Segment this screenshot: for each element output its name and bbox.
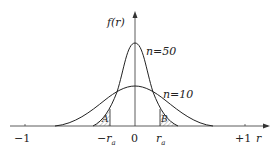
- tick-label-minus-1: −1: [14, 133, 30, 144]
- y-axis-label: f(r): [107, 17, 125, 28]
- tick-label-zero: 0: [131, 133, 138, 144]
- ra-subscript: a: [111, 139, 115, 147]
- curve-label-n50-text: n=50: [146, 45, 176, 58]
- x-axis-label: r: [256, 133, 261, 144]
- ra-subscript: a: [161, 139, 165, 147]
- x-axis-arrow-icon: [263, 124, 270, 129]
- region-label-b: B: [161, 114, 168, 125]
- curve-label-n50: n=50: [146, 46, 176, 57]
- minus-sign: −: [97, 132, 106, 145]
- tick-label-plus-1: +1: [235, 133, 251, 144]
- tick-label-ra: ra: [156, 133, 165, 149]
- curve-label-n10-text: n=10: [163, 88, 193, 101]
- curve-label-n10: n=10: [163, 89, 193, 100]
- tick-label-minus-ra: −ra: [97, 133, 116, 149]
- region-label-a: A: [102, 114, 109, 125]
- y-axis-arrow-icon: [133, 11, 138, 18]
